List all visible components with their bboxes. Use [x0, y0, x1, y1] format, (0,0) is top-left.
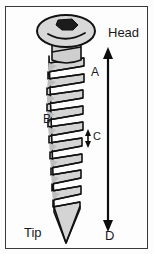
label-a: A — [91, 66, 99, 78]
label-b: B — [43, 113, 51, 125]
label-head: Head — [108, 26, 139, 39]
label-d: D — [105, 229, 114, 242]
label-tip: Tip — [24, 226, 42, 239]
screw-diagram-figure: Head Tip A B C D — [0, 0, 154, 254]
label-c: C — [93, 131, 101, 142]
